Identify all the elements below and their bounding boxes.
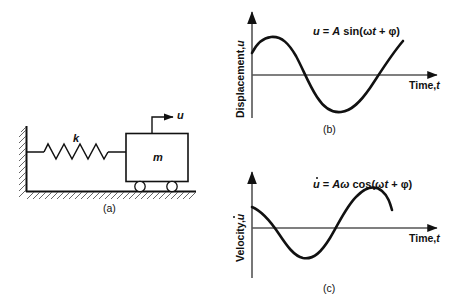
c-y-axis-symbol: u — [235, 214, 246, 220]
c-velocity-curve — [252, 188, 392, 259]
b-eq-arg-open: (ω — [359, 25, 372, 37]
b-eq-equals: = — [323, 25, 329, 37]
displacement-arrow-label: u — [177, 110, 184, 121]
c-eq-equals: = — [323, 178, 329, 190]
b-y-axis-title: Displacement,u — [235, 40, 246, 118]
b-eq-amplitude: A — [332, 25, 340, 37]
spring-element — [27, 144, 126, 159]
panel-a-caption: (a) — [103, 203, 116, 214]
c-equation: u = Aω cos(ωt + φ) — [313, 179, 412, 190]
b-eq-arg-close: + φ) — [376, 25, 400, 37]
spring-constant-label: k — [73, 133, 79, 144]
c-y-axis-title-text: Velocity, — [234, 220, 246, 262]
b-y-axis-title-text: Displacement, — [234, 47, 246, 118]
b-x-axis-title: Time,t — [409, 80, 440, 91]
b-eq-function: sin — [343, 25, 359, 37]
ground-surface — [26, 192, 196, 200]
wheels — [135, 181, 177, 191]
mass-label: m — [153, 152, 163, 163]
b-y-axis-symbol: u — [234, 40, 246, 46]
figure-root: k m u (a) Displacement,u Time,t u = A si… — [0, 0, 466, 305]
b-equation: u = A sin(ωt + φ) — [313, 26, 400, 37]
fixed-wall — [19, 126, 27, 197]
c-x-axis-title: Time,t — [409, 233, 440, 244]
b-x-axis-symbol: t — [436, 79, 440, 91]
c-eq-lhs: u — [313, 179, 320, 190]
c-eq-function: cos — [352, 178, 371, 190]
figure-canvas — [0, 0, 466, 305]
wheel-right — [167, 181, 177, 191]
c-y-axis-title: Velocity,u — [235, 214, 246, 262]
c-eq-arg-close: + φ) — [388, 178, 412, 190]
panel-b-caption: (b) — [323, 124, 336, 135]
c-eq-amplitude: Aω — [332, 178, 349, 190]
panel-c-caption: (c) — [323, 283, 335, 294]
wheel-left — [135, 181, 145, 191]
c-x-axis-symbol: t — [436, 232, 440, 244]
c-eq-arg-open: (ω — [371, 178, 384, 190]
panel-a-schematic — [19, 117, 196, 199]
b-eq-lhs: u — [313, 25, 320, 37]
c-x-axis-title-text: Time, — [409, 232, 436, 244]
b-x-axis-title-text: Time, — [409, 79, 436, 91]
displacement-arrow — [152, 117, 173, 133]
